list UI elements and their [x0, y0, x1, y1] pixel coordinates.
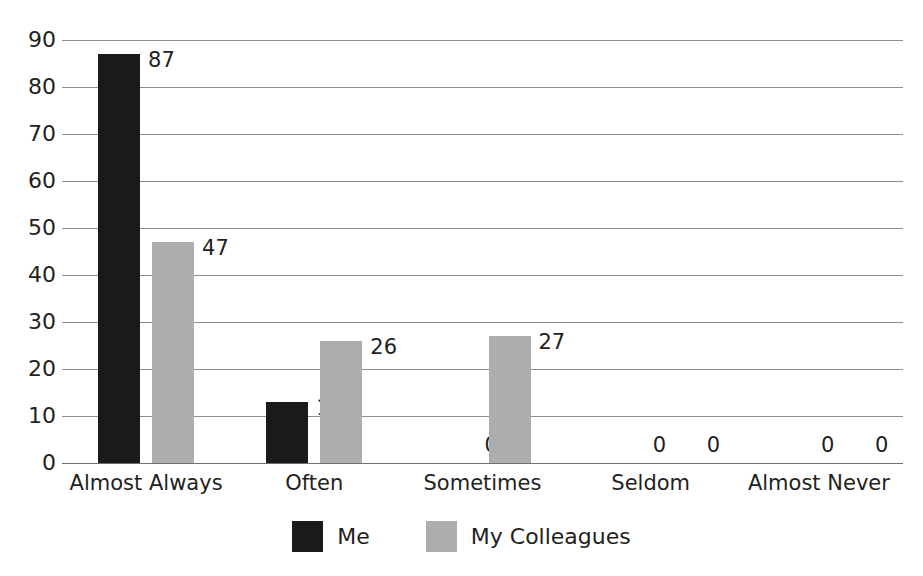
legend-swatch-icon — [426, 521, 457, 552]
x-axis-category-label: Seldom — [567, 470, 735, 496]
bar-value-label: 0 — [707, 435, 720, 456]
x-axis-category-labels: Almost AlwaysOftenSometimesSeldomAlmost … — [62, 470, 903, 502]
legend-label: My Colleagues — [471, 526, 631, 548]
y-axis-tick-label: 40 — [4, 264, 56, 286]
bar-chart: 9080706050403020100 874713260270000 Almo… — [0, 0, 923, 576]
gridline — [62, 87, 903, 88]
y-axis-tick-label: 20 — [4, 358, 56, 380]
y-axis-tick-label: 10 — [4, 405, 56, 427]
bar-value-label: 26 — [370, 337, 397, 358]
bar-value-label: 47 — [202, 238, 229, 259]
bar — [98, 54, 140, 463]
legend-label: Me — [337, 526, 370, 548]
y-axis-tick-label: 90 — [4, 29, 56, 51]
bar-value-label: 27 — [539, 332, 566, 353]
legend-item[interactable]: My Colleagues — [426, 521, 631, 552]
x-axis-category-label: Almost Always — [62, 470, 230, 496]
bar-value-label: 0 — [821, 435, 834, 456]
legend-swatch-icon — [292, 521, 323, 552]
y-axis-tick-label: 60 — [4, 170, 56, 192]
legend-item[interactable]: Me — [292, 521, 370, 552]
y-axis-tick-labels: 9080706050403020100 — [0, 40, 56, 463]
gridline — [62, 40, 903, 41]
bar-value-label: 0 — [653, 435, 666, 456]
x-axis-category-label: Sometimes — [398, 470, 566, 496]
bar-value-label: 0 — [875, 435, 888, 456]
x-axis-category-label: Almost Never — [735, 470, 903, 496]
bar-value-label: 87 — [148, 50, 175, 71]
chart-title — [0, 0, 923, 8]
bar — [266, 402, 308, 463]
y-axis-tick-label: 50 — [4, 217, 56, 239]
bar — [489, 336, 531, 463]
y-axis-tick-label: 80 — [4, 76, 56, 98]
gridline — [62, 228, 903, 229]
x-axis-line — [62, 463, 903, 464]
bar — [152, 242, 194, 463]
y-axis-tick-label: 0 — [4, 452, 56, 474]
gridline — [62, 134, 903, 135]
gridline — [62, 181, 903, 182]
x-axis-category-label: Often — [230, 470, 398, 496]
y-axis-tick-label: 30 — [4, 311, 56, 333]
chart-legend: MeMy Colleagues — [0, 521, 923, 552]
plot-area: 874713260270000 — [62, 40, 903, 463]
y-axis-tick-label: 70 — [4, 123, 56, 145]
bar — [320, 341, 362, 463]
